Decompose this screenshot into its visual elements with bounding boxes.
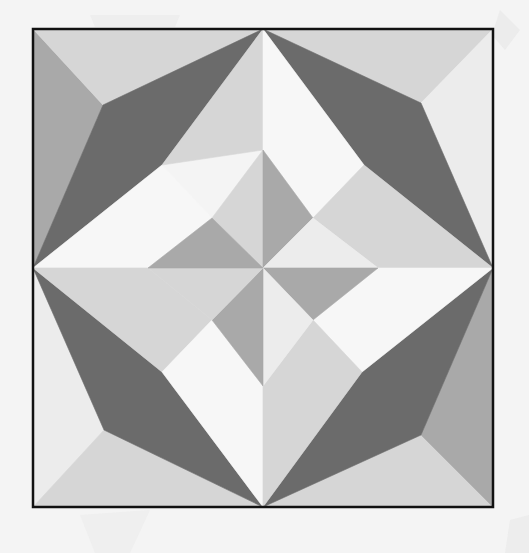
quilt-block-svg	[0, 0, 529, 553]
ghost-shape-top	[90, 15, 180, 27]
ghost-shape-top-right	[492, 10, 520, 50]
ghost-shape-bottom-right	[505, 515, 529, 553]
quilt-block-image	[0, 0, 529, 553]
quilt-pieces	[33, 29, 493, 507]
ghost-shape-bottom	[80, 510, 150, 553]
